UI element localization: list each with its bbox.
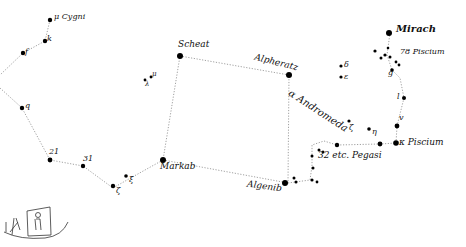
label-32-pegasi: 32 etc. Pegasi xyxy=(318,151,382,160)
label-kappa-piscium: κ Piscium xyxy=(399,138,444,147)
label-31: 31 xyxy=(83,155,93,163)
label-mu-cygni: μ Cygni xyxy=(54,13,85,21)
label-lambda: λ xyxy=(145,81,149,88)
label-zeta-andromeda: ζ xyxy=(349,124,353,132)
label-xi: ξ xyxy=(129,176,133,184)
label-zeta: ζ xyxy=(116,187,120,195)
label-delta: δ xyxy=(344,61,349,69)
label-mu: μ xyxy=(152,71,157,78)
label-mirach: Mirach xyxy=(396,24,436,34)
label-scheat: Scheat xyxy=(178,40,209,49)
label-21: 21 xyxy=(49,148,59,156)
label-g: g xyxy=(388,69,393,77)
label-q: q xyxy=(25,102,30,110)
label-eta: η xyxy=(372,128,377,136)
label-l: l xyxy=(397,93,400,101)
constellation-lines xyxy=(0,0,466,247)
label-markab: Markab xyxy=(160,162,195,171)
label-f: f xyxy=(25,48,28,56)
star-chart: μ Cygni k f q 21 31 ζ ξ Markab Scheat μ … xyxy=(0,0,466,247)
label-epsilon: ε xyxy=(344,73,348,81)
label-78-piscium: 78 Piscium xyxy=(400,48,445,56)
label-v: v xyxy=(399,114,404,122)
boat-sketch-icon xyxy=(4,207,68,238)
label-k: k xyxy=(47,35,52,43)
